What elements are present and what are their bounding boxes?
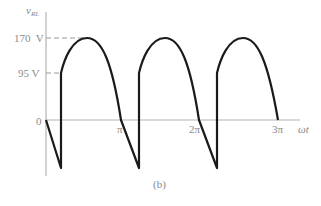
level-95-label: 95 V bbox=[18, 67, 40, 79]
tick-label-3pi: 3π bbox=[272, 123, 284, 135]
origin-label: 0 bbox=[36, 115, 42, 127]
x-axis-label: ωt bbox=[298, 123, 310, 135]
waveform-figure: vRL 170 V 95 V 0 π 2π 3π ωt (b) bbox=[0, 0, 321, 206]
tick-label-2pi: 2π bbox=[189, 123, 201, 135]
load-voltage-curve bbox=[46, 38, 278, 168]
tick-label-pi: π bbox=[117, 123, 123, 135]
level-170-label: 170 V bbox=[14, 32, 44, 44]
y-axis-label: vRL bbox=[26, 4, 39, 18]
figure-caption: (b) bbox=[153, 178, 166, 191]
